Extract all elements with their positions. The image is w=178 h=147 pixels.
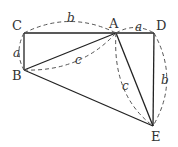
length-label-AE: c: [122, 79, 129, 93]
segment-DE: [153, 33, 154, 126]
point-label-E: E: [151, 129, 161, 144]
geometry-diagram: C A D B E b a a c c b: [0, 0, 178, 147]
length-label-CA: b: [67, 11, 75, 25]
length-label-AD: a: [135, 20, 142, 34]
length-label-AB: c: [75, 53, 82, 67]
length-label-DE: b: [161, 73, 169, 87]
point-label-D: D: [156, 18, 166, 33]
segment-BA: [24, 33, 116, 70]
length-label-CB: a: [13, 46, 20, 60]
point-label-C: C: [12, 18, 22, 33]
point-label-B: B: [12, 68, 22, 83]
point-label-A: A: [108, 16, 119, 31]
